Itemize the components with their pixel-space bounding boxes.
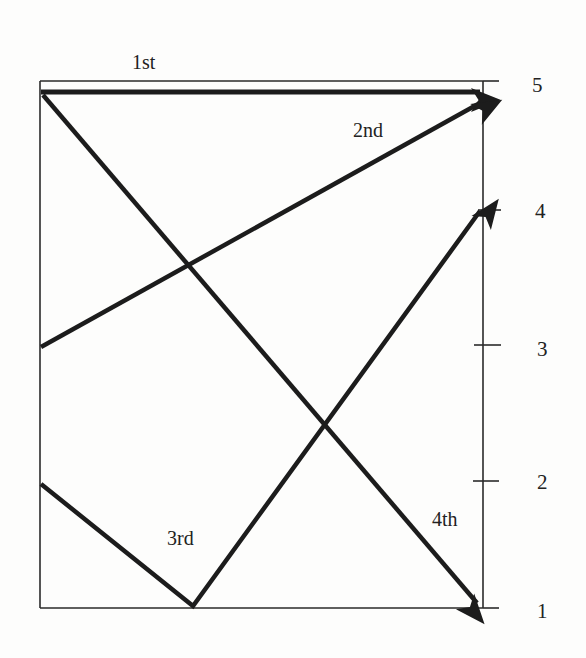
tick-label-4: 4 — [535, 201, 546, 222]
arrow-4th — [43, 95, 477, 603]
tick-label-5: 5 — [532, 75, 543, 96]
label-1st: 1st — [132, 52, 155, 72]
tick-label-2: 2 — [537, 472, 548, 493]
tick-label-1: 1 — [537, 601, 548, 622]
tick-label-3: 3 — [537, 339, 548, 360]
label-2nd: 2nd — [353, 120, 383, 140]
arrow-3rd — [41, 211, 480, 606]
sequence-diagram — [0, 0, 586, 658]
axis-ticks — [473, 81, 501, 608]
label-3rd: 3rd — [167, 528, 194, 548]
arrows — [41, 92, 480, 606]
label-4th: 4th — [432, 509, 458, 529]
arrow-2nd — [41, 103, 480, 347]
